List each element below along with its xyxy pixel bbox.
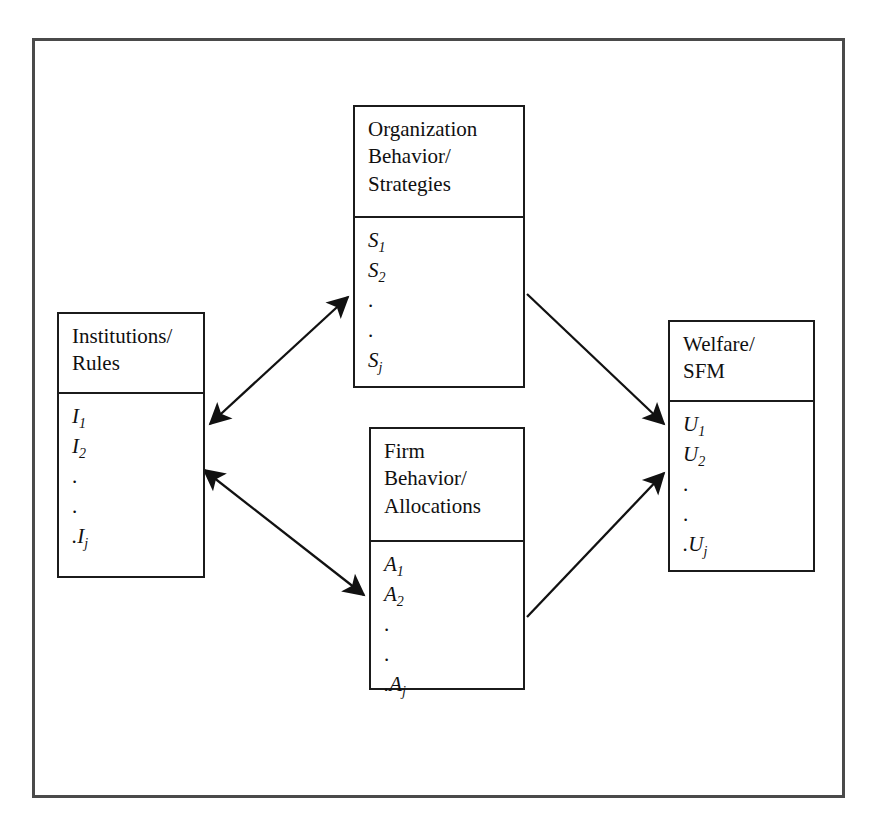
header-line: Institutions/ bbox=[72, 323, 203, 350]
node-organization[interactable]: Organization Behavior/ Strategies S1 S2 … bbox=[353, 105, 525, 388]
list-item: U1 bbox=[683, 411, 813, 441]
header-line: Rules bbox=[72, 350, 203, 377]
list-item: . bbox=[72, 463, 203, 493]
header-line: Organization bbox=[368, 116, 523, 143]
node-welfare-header: Welfare/ SFM bbox=[670, 322, 813, 402]
list-item: . bbox=[384, 611, 523, 641]
node-organization-body: S1 S2 . . Sj bbox=[355, 218, 523, 377]
header-line: Strategies bbox=[368, 171, 523, 198]
list-item: . bbox=[683, 501, 813, 531]
list-item: . bbox=[683, 471, 813, 501]
list-item: . bbox=[72, 493, 203, 523]
list-item: I1 bbox=[72, 403, 203, 433]
list-item: Sj bbox=[368, 347, 523, 377]
list-item: . bbox=[368, 287, 523, 317]
node-welfare[interactable]: Welfare/ SFM U1 U2 . . .Uj bbox=[668, 320, 815, 572]
node-institutions-body: I1 I2 . . .Ij bbox=[59, 394, 203, 553]
node-firm-header: Firm Behavior/ Allocations bbox=[371, 429, 523, 542]
list-item: . bbox=[384, 641, 523, 671]
node-institutions[interactable]: Institutions/ Rules I1 I2 . . .Ij bbox=[57, 312, 205, 578]
list-item: .Ij bbox=[72, 523, 203, 553]
list-item: . bbox=[368, 317, 523, 347]
list-item: A1 bbox=[384, 551, 523, 581]
node-welfare-body: U1 U2 . . .Uj bbox=[670, 402, 813, 561]
header-line: Behavior/ bbox=[368, 143, 523, 170]
header-line: Allocations bbox=[384, 493, 523, 520]
list-item: S1 bbox=[368, 227, 523, 257]
node-organization-header: Organization Behavior/ Strategies bbox=[355, 107, 523, 218]
header-line: Firm bbox=[384, 438, 523, 465]
header-line: SFM bbox=[683, 358, 813, 385]
list-item: U2 bbox=[683, 441, 813, 471]
node-firm-body: A1 A2 . . .Aj bbox=[371, 542, 523, 701]
node-firm[interactable]: Firm Behavior/ Allocations A1 A2 . . .Aj bbox=[369, 427, 525, 690]
list-item: S2 bbox=[368, 257, 523, 287]
diagram-canvas: Institutions/ Rules I1 I2 . . .Ij Organi… bbox=[0, 0, 880, 830]
header-line: Behavior/ bbox=[384, 465, 523, 492]
list-item: .Uj bbox=[683, 531, 813, 561]
node-institutions-header: Institutions/ Rules bbox=[59, 314, 203, 394]
list-item: I2 bbox=[72, 433, 203, 463]
header-line: Welfare/ bbox=[683, 331, 813, 358]
list-item: .Aj bbox=[384, 671, 523, 701]
list-item: A2 bbox=[384, 581, 523, 611]
